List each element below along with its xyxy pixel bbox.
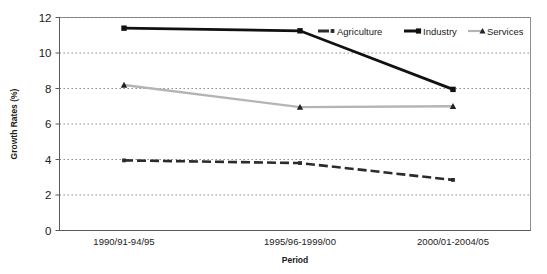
- x-tick-label-0: 1990/91-94/95: [93, 236, 154, 247]
- y-tick-label-6: 6: [45, 118, 51, 130]
- y-axis-tick-labels-group: 024681012: [39, 12, 52, 237]
- series-group: [121, 25, 456, 181]
- legend-marker-industry: [416, 28, 421, 33]
- legend-label-industry: Industry: [423, 26, 457, 37]
- marker-agriculture-1: [298, 161, 302, 165]
- marker-industry-2: [450, 87, 455, 92]
- growth-rates-line-chart: 024681012 Growth Rates (%) 1990/91-94/95…: [0, 0, 547, 274]
- x-tick-label-2: 2000/01-2004/05: [417, 236, 489, 247]
- series-line-agriculture: [124, 160, 453, 180]
- marker-industry-0: [121, 25, 126, 30]
- y-axis-ticks-group: [56, 18, 60, 231]
- series-line-industry: [124, 28, 453, 89]
- y-axis-title: Growth Rates (%): [9, 88, 19, 159]
- y-tick-label-0: 0: [45, 225, 51, 237]
- chart-canvas: 024681012 Growth Rates (%) 1990/91-94/95…: [0, 0, 547, 274]
- y-tick-label-8: 8: [45, 83, 51, 95]
- marker-agriculture-2: [451, 178, 455, 182]
- marker-industry-1: [297, 28, 302, 33]
- marker-agriculture-0: [122, 158, 126, 162]
- y-tick-label-10: 10: [39, 47, 52, 59]
- y-tick-label-2: 2: [45, 189, 51, 201]
- chart-legend: AgricultureIndustryServices: [318, 26, 524, 37]
- legend-marker-agriculture: [331, 29, 335, 33]
- x-tick-label-1: 1995/96-1999/00: [264, 236, 336, 247]
- legend-label-services: Services: [487, 26, 524, 37]
- y-tick-label-4: 4: [45, 154, 52, 166]
- x-axis-tick-labels-group: 1990/91-94/951995/96-1999/002000/01-2004…: [93, 236, 489, 247]
- x-axis-title: Period: [282, 255, 308, 265]
- legend-label-agriculture: Agriculture: [337, 26, 382, 37]
- y-tick-label-12: 12: [39, 12, 52, 24]
